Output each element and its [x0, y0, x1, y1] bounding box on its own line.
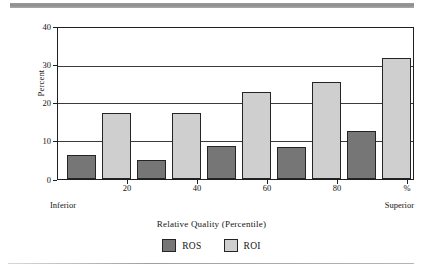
bar-ros-1 [67, 155, 96, 179]
legend-item-roi: ROI [224, 239, 261, 252]
legend-item-ros: ROS [162, 239, 201, 252]
y-tick-mark-0 [53, 180, 57, 181]
y-axis-title: Percent [36, 38, 46, 128]
gridline-30 [58, 66, 413, 67]
plot-wrapper: Percent 40 30 20 10 0 [0, 0, 423, 269]
bar-roi-5 [382, 58, 411, 179]
bar-ros-5 [347, 131, 376, 179]
figure-root: Percent 40 30 20 10 0 [0, 0, 423, 269]
bar-roi-2 [172, 113, 201, 179]
x-tick-label-60: 60 [255, 184, 279, 193]
x-axis-end-label-superior: Superior [385, 200, 414, 210]
chart-legend: ROS ROI [0, 239, 423, 252]
legend-swatch-ros [162, 239, 176, 252]
x-tick-label-pct: % [395, 184, 419, 193]
bar-ros-3 [207, 146, 236, 179]
bar-roi-3 [242, 92, 271, 179]
bottom-rule-decoration [8, 263, 414, 264]
gridline-20 [58, 103, 413, 104]
legend-label-ros: ROS [182, 241, 201, 251]
bar-roi-1 [102, 113, 131, 179]
legend-swatch-roi [224, 239, 238, 252]
bar-ros-2 [137, 160, 166, 179]
y-tick-label-30: 30 [35, 61, 51, 70]
y-tick-label-20: 20 [35, 99, 51, 108]
y-tick-label-40: 40 [35, 23, 51, 32]
x-tick-label-40: 40 [185, 184, 209, 193]
bar-ros-4 [277, 147, 306, 179]
x-tick-label-20: 20 [115, 184, 139, 193]
bar-roi-4 [312, 82, 341, 179]
x-tick-label-80: 80 [325, 184, 349, 193]
legend-label-roi: ROI [244, 241, 261, 251]
x-axis-end-label-inferior: Inferior [50, 200, 76, 210]
plot-area [57, 27, 414, 180]
y-tick-label-10: 10 [35, 137, 51, 146]
y-tick-label-0: 0 [35, 176, 51, 185]
x-axis-title: Relative Quality (Percentile) [0, 219, 423, 229]
